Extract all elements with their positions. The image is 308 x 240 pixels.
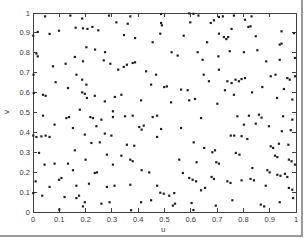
data-point (45, 95, 47, 97)
data-point (90, 142, 92, 144)
data-point (236, 115, 238, 117)
data-point (188, 99, 190, 101)
data-point (160, 22, 162, 24)
data-point (265, 60, 267, 62)
data-point (223, 36, 225, 38)
data-point (247, 26, 249, 28)
data-point (86, 97, 88, 99)
data-point (89, 116, 91, 118)
data-point (218, 16, 220, 18)
data-point (148, 171, 150, 173)
data-point (282, 115, 284, 117)
data-point (69, 14, 71, 16)
data-point (226, 80, 228, 82)
data-point (244, 77, 246, 79)
data-point (159, 192, 161, 194)
data-point (97, 29, 99, 31)
data-point (230, 134, 232, 136)
data-point (283, 88, 285, 90)
y-tick-label: 0.1 (20, 188, 30, 197)
data-point (156, 115, 158, 117)
x-tick-label: 0.6 (186, 215, 196, 224)
data-point (250, 15, 252, 17)
figure-window: 00.10.20.30.40.50.60.70.80.9100.10.20.30… (0, 0, 308, 240)
data-point (287, 144, 289, 146)
data-point (160, 128, 162, 130)
x-tick-label: 0.5 (159, 215, 169, 224)
data-point (224, 89, 226, 91)
data-point (150, 199, 152, 201)
data-point (279, 175, 281, 177)
data-point (55, 81, 57, 83)
data-point (152, 41, 154, 43)
data-point (84, 93, 86, 95)
data-point (203, 74, 205, 76)
data-point (94, 172, 96, 174)
data-point (251, 167, 253, 169)
data-point (281, 130, 283, 132)
data-point (85, 84, 87, 86)
data-point (94, 49, 96, 51)
data-point (270, 75, 272, 77)
x-tick-label: 0.9 (264, 215, 274, 224)
data-point (263, 205, 265, 207)
data-point (82, 27, 84, 29)
data-point (235, 152, 237, 154)
data-point (183, 35, 185, 37)
data-point (32, 192, 34, 194)
data-point (141, 169, 143, 171)
data-point (189, 21, 191, 23)
data-point (230, 82, 232, 84)
data-point (63, 196, 65, 198)
data-point (127, 23, 129, 25)
window-edge-right (301, 0, 303, 237)
data-point (172, 205, 174, 207)
data-point (266, 169, 268, 171)
data-point (95, 125, 97, 127)
data-point (279, 59, 281, 61)
y-tick-label: 0.6 (20, 88, 30, 97)
data-point (249, 25, 251, 27)
data-point (35, 180, 37, 182)
data-point (152, 116, 154, 118)
data-point (255, 35, 257, 37)
data-point (258, 114, 260, 116)
data-point (72, 169, 74, 171)
data-point (197, 14, 199, 16)
data-point (132, 160, 134, 162)
data-point (240, 135, 242, 137)
data-point (288, 187, 290, 189)
x-tick-label: 0.8 (238, 215, 248, 224)
data-point (68, 116, 70, 118)
data-point (48, 33, 50, 35)
data-point (114, 96, 116, 98)
data-point (82, 205, 84, 207)
data-point (233, 14, 235, 16)
data-point (294, 57, 296, 59)
data-point (173, 192, 175, 194)
data-point (255, 123, 257, 125)
data-point (126, 64, 128, 66)
x-tick-label: 1 (294, 215, 298, 224)
data-point (203, 147, 205, 149)
data-point (217, 55, 219, 57)
data-point (40, 135, 42, 137)
data-point (284, 173, 286, 175)
x-tick-label: 0.4 (133, 215, 143, 224)
data-point (156, 185, 158, 187)
data-point (208, 80, 210, 82)
data-point (99, 141, 101, 143)
data-point (260, 117, 262, 119)
data-point (268, 125, 270, 127)
data-point (42, 115, 44, 117)
data-point (214, 149, 216, 151)
data-point (159, 33, 161, 35)
plot-box (33, 13, 296, 212)
data-point (290, 129, 292, 131)
data-point (231, 199, 233, 201)
data-point (168, 195, 170, 197)
data-point (150, 84, 152, 86)
data-point (213, 178, 215, 180)
data-point (134, 37, 136, 39)
data-point (129, 159, 131, 161)
